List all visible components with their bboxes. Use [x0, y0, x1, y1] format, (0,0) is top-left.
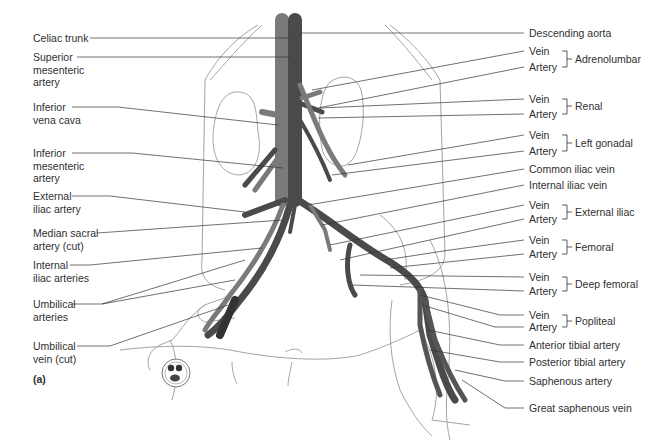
label-femoral-vein: Vein [529, 234, 549, 247]
label-deep-femoral-vein: Vein [529, 271, 549, 284]
label-common-iliac-vein: Common iliac vein [529, 163, 615, 176]
label-umbilical-vein: Umbilical vein (cut) [33, 340, 76, 365]
label-line: Superior [33, 51, 84, 64]
label-line: iliac arteries [33, 272, 89, 285]
group-renal: Renal [575, 100, 602, 112]
label-line: Median sacral [33, 227, 98, 240]
label-deep-femoral-artery: Artery [529, 285, 557, 298]
label-renal-vein: Vein [529, 93, 549, 106]
label-anterior-tibial-artery: Anterior tibial artery [529, 339, 620, 352]
label-line: Internal [33, 259, 89, 272]
label-renal-artery: Artery [529, 108, 557, 121]
label-popliteal-artery: Artery [529, 321, 557, 334]
group-deep-femoral: Deep femoral [575, 278, 638, 290]
label-superior-mesenteric-artery: Superior mesenteric artery [33, 51, 84, 89]
label-femoral-artery: Artery [529, 248, 557, 261]
label-line: artery (cut) [33, 240, 98, 253]
label-line: artery [33, 76, 84, 89]
label-descending-aorta: Descending aorta [529, 27, 611, 40]
label-posterior-tibial-artery: Posterior tibial artery [529, 356, 625, 369]
label-left-gonadal-vein: Vein [529, 129, 549, 142]
label-line: artery [33, 172, 84, 185]
label-line: Umbilical [33, 340, 76, 353]
group-femoral: Femoral [575, 241, 614, 253]
label-line: Inferior [33, 147, 84, 160]
group-external-iliac: External iliac [575, 206, 635, 218]
vessels [205, 20, 465, 400]
label-celiac-trunk: Celiac trunk [33, 32, 88, 45]
umbilical-cord-section [162, 359, 190, 387]
label-adrenolumbar-artery: Artery [529, 61, 557, 74]
label-external-iliac-artery-right: Artery [529, 213, 557, 226]
label-saphenous-artery: Saphenous artery [529, 375, 612, 388]
group-adrenolumbar: Adrenolumbar [575, 53, 641, 65]
label-line: External [33, 190, 81, 203]
label-line: vein (cut) [33, 353, 76, 366]
label-adrenolumbar-vein: Vein [529, 45, 549, 58]
figure-label: (a) [33, 373, 46, 386]
group-left-gonadal: Left gonadal [575, 137, 633, 149]
label-external-iliac-vein: Vein [529, 199, 549, 212]
label-median-sacral-artery: Median sacral artery (cut) [33, 227, 98, 252]
label-line: mesenteric [33, 160, 84, 173]
label-line: Umbilical [33, 298, 76, 311]
label-line: Inferior [33, 101, 81, 114]
label-popliteal-vein: Vein [529, 309, 549, 322]
label-line: iliac artery [33, 203, 81, 216]
label-left-gonadal-artery: Artery [529, 145, 557, 158]
label-inferior-vena-cava: Inferior vena cava [33, 101, 81, 126]
group-popliteal: Popliteal [575, 315, 615, 327]
label-inferior-mesenteric-artery: Inferior mesenteric artery [33, 147, 84, 185]
label-line: mesenteric [33, 64, 84, 77]
label-internal-iliac-vein: Internal iliac vein [529, 179, 607, 192]
label-great-saphenous-vein: Great saphenous vein [529, 402, 632, 415]
label-line: vena cava [33, 114, 81, 127]
label-external-iliac-artery: External iliac artery [33, 190, 81, 215]
label-umbilical-arteries: Umbilical arteries [33, 298, 76, 323]
label-internal-iliac-arteries: Internal iliac arteries [33, 259, 89, 284]
label-line: arteries [33, 311, 76, 324]
